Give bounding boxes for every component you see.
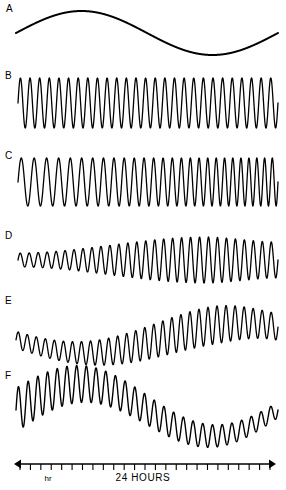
trace-label-e: E — [5, 295, 12, 306]
axis-minor-label: hr — [44, 474, 51, 483]
trace-label-b: B — [5, 70, 12, 81]
axis-label: 24 HOURS — [116, 472, 171, 483]
waveform-figure: 24 HOURS hr ABCDEF — [0, 0, 286, 490]
trace-label-c: C — [5, 150, 12, 161]
trace-label-f: F — [5, 370, 11, 381]
trace-label-d: D — [5, 230, 12, 241]
trace-label-a: A — [6, 3, 13, 14]
